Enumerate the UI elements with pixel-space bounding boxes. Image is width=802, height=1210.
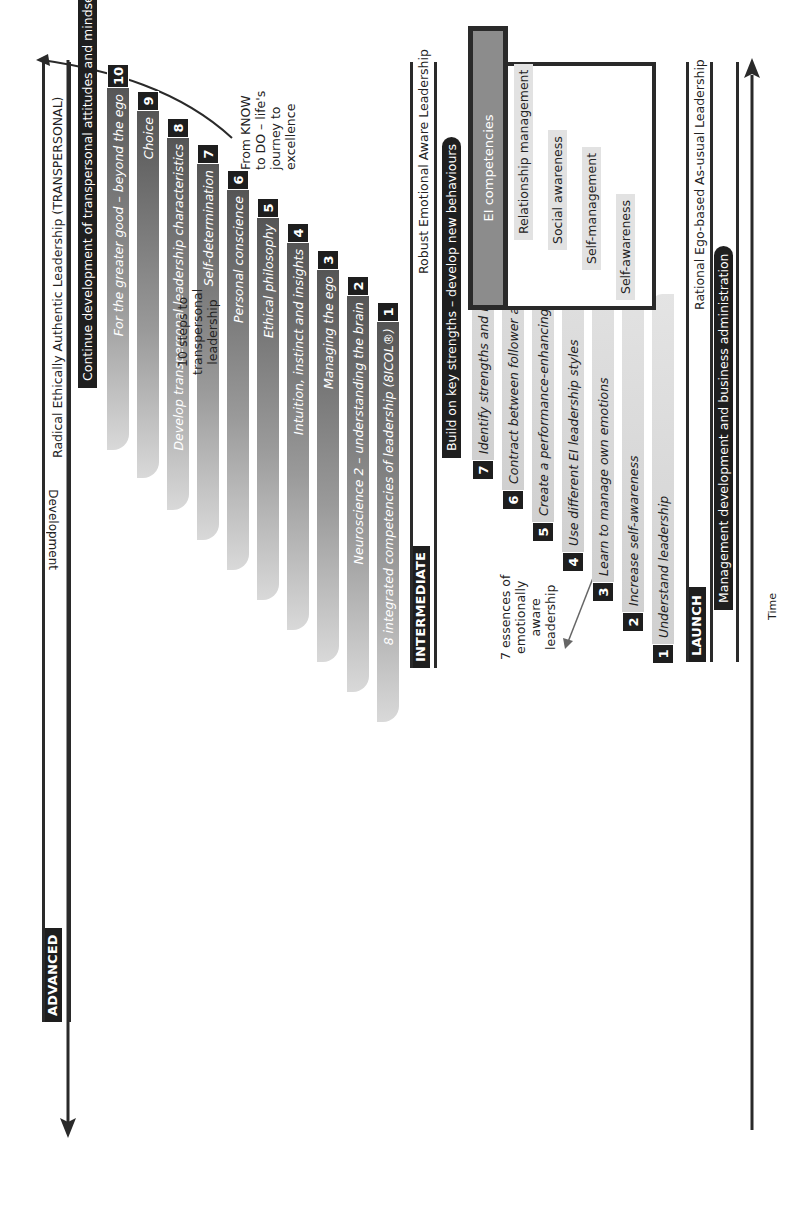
advanced-step-label: Managing the ego (321, 270, 336, 389)
advanced-step-label: Intuition, instinct and insights (291, 243, 306, 435)
advanced-step-3: Managing the ego 3 (317, 250, 339, 662)
time-axis-label: Time (766, 593, 779, 620)
note-line: 7 essences of (498, 575, 513, 660)
step-number-badge: 7 (197, 144, 219, 164)
advanced-step-10: For the greater good – beyond the ego 10 (107, 64, 129, 450)
launch-mid-rule (710, 62, 713, 662)
step-number-badge: 10 (107, 64, 129, 88)
ei-item-self-management: Self-management (582, 147, 601, 270)
advanced-top-rule (42, 62, 45, 1022)
step-number-badge: 1 (652, 644, 674, 664)
note-line: leadership (543, 575, 558, 660)
intermediate-step-label: Increase self-awareness (626, 455, 641, 612)
advanced-callout: From KNOW to DO – life's journey to exce… (238, 91, 298, 170)
step-number-badge: 6 (227, 170, 249, 190)
level-tag-launch: LAUNCH (686, 587, 706, 662)
intermediate-bottom-rule (434, 62, 437, 668)
advanced-step-label: Personal conscience (231, 190, 246, 323)
intermediate-step-1: 1 Understand leadership (652, 496, 674, 664)
advanced-step-label: Ethical philosophy (261, 218, 276, 338)
advanced-step-2: Neuroscience 2 – understanding the brain… (347, 276, 369, 692)
advanced-bottom-rule (68, 62, 71, 1022)
note-line: emotionally (513, 575, 528, 660)
step-number-badge: 4 (287, 223, 309, 243)
advanced-step-label: Self-determination (201, 164, 216, 286)
development-axis-label: Development (46, 489, 60, 570)
note-line: 10 steps to (175, 289, 190, 375)
step-number-badge: 7 (472, 460, 494, 480)
advanced-step-9: Choice 9 (137, 91, 159, 478)
advanced-header-bar: Continue development of transpersonal at… (78, 0, 97, 388)
step-number-badge: 1 (377, 302, 399, 322)
launch-bottom-rule (736, 62, 739, 662)
note-line: aware (528, 575, 543, 660)
band-title-intermediate: Robust Emotional Aware Leadership (416, 49, 431, 274)
callout-line: journey to (268, 91, 283, 170)
band-title-advanced: Radical Ethically Authentic Leadership (… (50, 97, 65, 458)
step-number-badge: 4 (562, 552, 584, 572)
intermediate-step-label: Learn to manage own emotions (596, 377, 611, 582)
band-title-launch: Rational Ego-based As-usual Leadership (692, 59, 707, 310)
intermediate-top-rule (410, 62, 413, 668)
note-line: transpersonal (190, 289, 205, 375)
advanced-step-1: 8 integrated competencies of leadership … (377, 302, 399, 722)
intermediate-step-4: 4 Use different EI leadership styles (562, 339, 584, 572)
advanced-step-label: Choice (141, 111, 156, 159)
intermediate-step-label: Understand leadership (656, 496, 671, 644)
advanced-step-label: Neuroscience 2 – understanding the brain (351, 296, 366, 564)
ei-competencies-header: EI competencies (468, 26, 508, 310)
callout-line: From KNOW (238, 91, 253, 170)
advanced-step-5: Ethical philosophy 5 (257, 198, 279, 600)
launch-top-rule (686, 62, 689, 662)
note-line: leadership (205, 289, 220, 375)
step-number-badge: 9 (137, 91, 159, 111)
intermediate-step-3: 3 Learn to manage own emotions (592, 377, 614, 602)
step-number-badge: 3 (317, 250, 339, 270)
step-number-badge: 5 (532, 522, 554, 542)
advanced-note: 10 steps to transpersonal leadership (175, 289, 220, 375)
callout-line: to DO – life's (253, 91, 268, 170)
intermediate-header-bar: Build on key strengths – develop new beh… (442, 137, 461, 458)
step-number-badge: 2 (347, 276, 369, 296)
advanced-step-6: Personal conscience 6 (227, 170, 249, 570)
callout-line: excellence (283, 91, 298, 170)
ei-item-social-awareness: Social awareness (548, 130, 567, 250)
leadership-development-diagram: Development Time ADVANCED Radical Ethica… (0, 0, 802, 1210)
step-number-badge: 8 (167, 118, 189, 138)
intermediate-note: 7 essences of emotionally aware leadersh… (498, 575, 558, 660)
step-number-badge: 6 (502, 490, 524, 510)
level-tag-intermediate: INTERMEDIATE (410, 546, 430, 668)
step-number-badge: 5 (257, 198, 279, 218)
advanced-step-label: 8 integrated competencies of leadership … (381, 322, 396, 645)
step-number-badge: 2 (622, 612, 644, 632)
step-number-badge: 3 (592, 582, 614, 602)
ei-item-self-awareness: Self-awareness (616, 194, 635, 300)
intermediate-step-label: Use different EI leadership styles (566, 339, 581, 552)
advanced-step-4: Intuition, instinct and insights 4 (287, 223, 309, 630)
level-tag-advanced: ADVANCED (42, 928, 62, 1022)
intermediate-step-2: 2 Increase self-awareness (622, 455, 644, 632)
advanced-step-label: For the greater good – beyond the ego (111, 88, 126, 336)
launch-header-bar: Management development and business admi… (714, 247, 733, 611)
ei-item-relationship-management: Relationship management (514, 64, 533, 240)
